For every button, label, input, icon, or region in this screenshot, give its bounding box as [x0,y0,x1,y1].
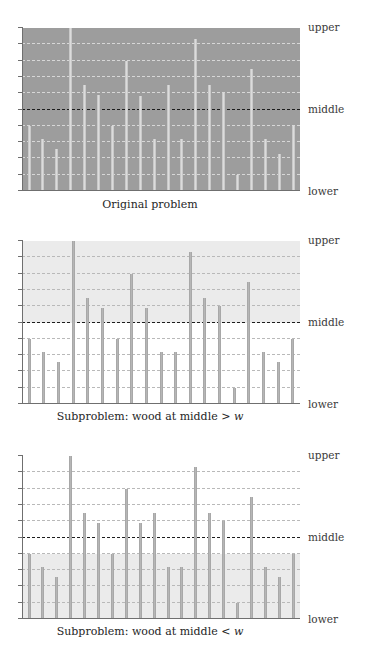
label-upper-less: upper [308,450,339,461]
bar [111,126,114,191]
gridline [22,520,300,521]
bar [130,274,133,404]
bar [28,126,31,191]
bar [116,339,119,404]
plot-inner-less [22,456,300,619]
caption-italic-less: w [234,625,243,638]
bar [97,95,100,191]
y-tick [18,92,23,93]
bar [28,554,31,619]
gridline [22,471,300,472]
bar [167,567,170,619]
bar [41,567,44,619]
y-tick [18,569,23,570]
bar [41,139,44,191]
bar [208,513,211,619]
reference-line-middle [22,109,300,110]
gridline [22,569,300,570]
bar [194,39,197,191]
bar [145,308,148,404]
plot-area-less [22,456,300,619]
bar [57,362,60,404]
caption-original: Original problem [0,198,300,211]
y-tick [18,537,23,538]
y-tick [18,553,23,554]
bar [222,521,225,619]
gridline [22,157,300,158]
label-lower-less: lower [308,614,338,625]
bar [55,149,58,191]
bar [125,489,128,619]
bar [174,352,177,404]
panel-subproblem-less: upper middle lower Subproblem: wood at m… [0,440,371,665]
label-lower-original: lower [308,186,338,197]
bar [101,308,104,404]
bar [291,339,294,404]
bar [247,282,250,404]
label-middle-greater: middle [308,317,344,328]
bar [69,456,72,619]
bar [236,175,239,191]
label-lower-greater: lower [308,399,338,410]
y-tick [18,471,23,472]
caption-less: Subproblem: wood at middle < w [0,625,300,638]
x-axis-less [22,618,300,619]
y-tick [18,585,23,586]
bar [69,28,72,191]
caption-italic-greater: w [234,410,243,423]
y-tick [18,190,23,191]
y-axis-less [22,456,23,619]
y-tick [18,60,23,61]
bar [97,523,100,619]
x-axis-greater [22,403,300,404]
y-tick [18,43,23,44]
bar [278,577,281,619]
bar [167,85,170,191]
y-tick [18,455,23,456]
bar [233,388,236,404]
y-tick [18,354,23,355]
plot-area-greater [22,241,300,404]
gridline [22,273,300,274]
bar [203,298,206,404]
panel-subproblem-greater: upper middle lower Subproblem: wood at m… [0,225,371,440]
gridline [22,585,300,586]
y-tick [18,305,23,306]
bar [28,339,31,404]
bar [189,252,192,404]
y-tick [18,76,23,77]
y-tick [18,109,23,110]
label-upper-original: upper [308,22,339,33]
reference-line-middle [22,322,300,323]
bar [180,139,183,191]
gridline [22,602,300,603]
bar [194,467,197,619]
bar [139,523,142,619]
y-axis-greater [22,241,23,404]
y-tick [18,141,23,142]
bar [277,362,280,404]
y-tick [18,157,23,158]
shade-region-greater [22,241,300,323]
bar [292,554,295,619]
label-middle-less: middle [308,532,344,543]
bar [264,567,267,619]
gridline [22,488,300,489]
bar [111,554,114,619]
bar [222,93,225,191]
bar [264,139,267,191]
y-tick [18,618,23,619]
gridline [22,92,300,93]
panel-original-problem: upper middle lower Original problem [0,0,371,215]
reference-line-middle [22,537,300,538]
bar [139,96,142,191]
bar [262,352,265,404]
bar [42,352,45,404]
gridline [22,141,300,142]
bar [250,69,253,191]
bar [208,85,211,191]
figure-canvas: upper middle lower Original problem uppe… [0,0,371,665]
caption-text-less: Subproblem: wood at middle < [57,625,234,638]
y-tick [18,387,23,388]
caption-greater: Subproblem: wood at middle > w [0,410,300,423]
